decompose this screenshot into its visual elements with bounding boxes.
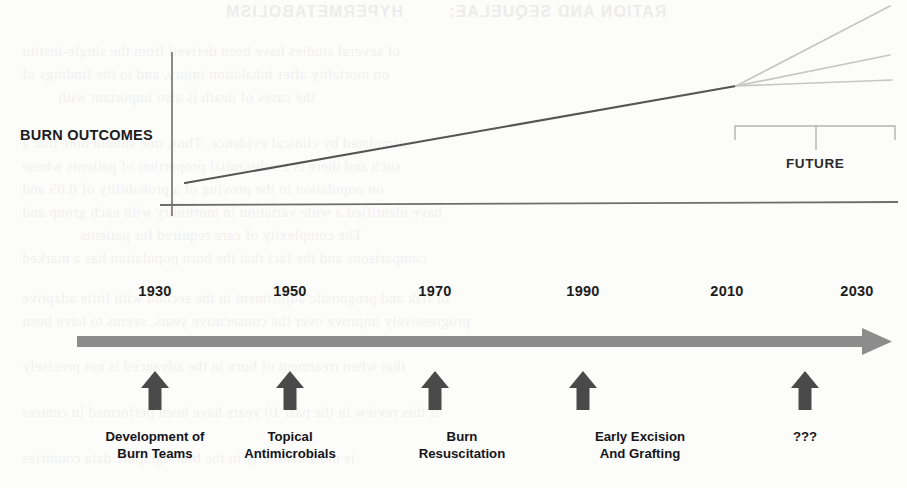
x-axis-line	[160, 202, 898, 205]
timeline-arrow	[77, 328, 892, 355]
year-tick-label: 1930	[138, 283, 171, 299]
year-tick-label: 2030	[840, 283, 873, 299]
event-caption: Burn Resuscitation	[419, 428, 505, 462]
event-caption-line1: Early Excision	[595, 429, 685, 444]
event-caption-line1: ???	[793, 429, 817, 444]
event-caption: Development of Burn Teams	[106, 428, 205, 462]
event-caption: Topical Antimicrobials	[244, 428, 336, 462]
event-caption-line1: Burn	[447, 429, 478, 444]
trend-line-observed	[185, 86, 736, 183]
year-tick-label: 1950	[273, 283, 306, 299]
event-marker-arrow	[141, 371, 169, 410]
event-marker-arrow	[569, 371, 597, 410]
event-caption-line2: And Grafting	[595, 445, 685, 462]
year-tick-label: 1970	[418, 283, 451, 299]
event-caption: ???	[793, 428, 817, 445]
future-bracket	[735, 126, 895, 140]
y-axis-label: BURN OUTCOMES	[20, 127, 153, 143]
event-caption-line1: Development of	[106, 429, 205, 444]
year-tick-label: 1990	[566, 283, 599, 299]
event-marker-arrow	[276, 371, 304, 410]
figure-artwork	[0, 0, 907, 488]
event-caption-line2: Burn Teams	[106, 445, 205, 462]
event-caption: Early Excision And Grafting	[595, 428, 685, 462]
future-bracket-label: FUTURE	[786, 156, 844, 171]
trend-line-future-optimistic	[736, 6, 890, 86]
event-caption-line2: Antimicrobials	[244, 445, 336, 462]
event-marker-arrow	[791, 371, 819, 410]
event-caption-line1: Topical	[267, 429, 312, 444]
event-caption-line2: Resuscitation	[419, 445, 505, 462]
year-tick-label: 2010	[710, 283, 743, 299]
event-marker-arrow	[421, 371, 449, 410]
